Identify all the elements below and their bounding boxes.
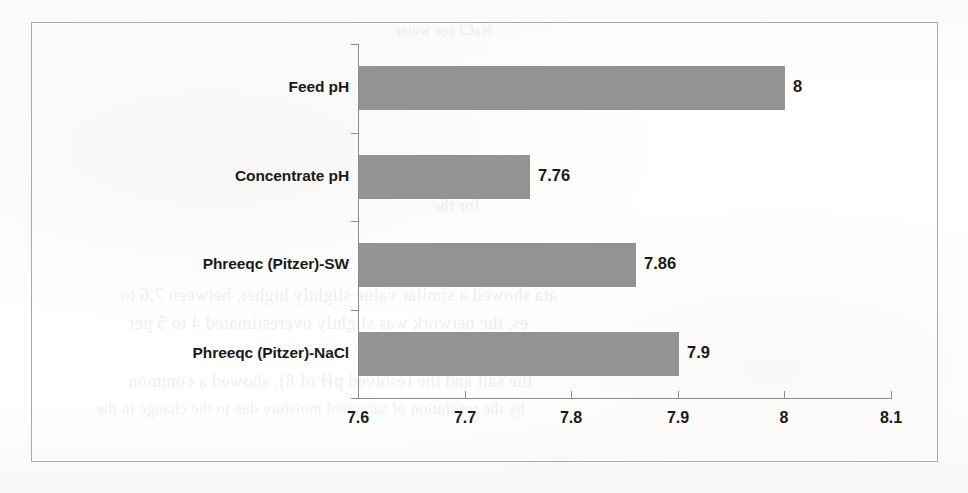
x-axis-tick-label: 8.1	[851, 409, 931, 427]
value-axis-tick	[891, 391, 892, 398]
x-axis-tick-label: 7.9	[638, 409, 718, 427]
category-axis-tick	[351, 221, 358, 222]
bar-chart-plot-area: 7.67.77.87.988.1Feed pH8Concentrate pH7.…	[32, 23, 937, 461]
value-axis-tick	[571, 391, 572, 398]
bar-value-label: 7.76	[538, 166, 570, 185]
x-axis-tick-label: 7.8	[531, 409, 611, 427]
category-axis-tick	[351, 44, 358, 45]
bar	[359, 66, 785, 110]
chart-border: 7.67.77.87.988.1Feed pH8Concentrate pH7.…	[31, 22, 938, 462]
value-axis-tick	[784, 391, 785, 398]
scanned-page: NaCl see waterfor theata showed a simila…	[0, 0, 968, 493]
bar-category-label: Feed pH	[19, 78, 349, 96]
bar-value-label: 7.9	[687, 343, 710, 362]
category-axis-tick	[351, 310, 358, 311]
value-axis-tick	[678, 391, 679, 398]
value-axis-tick	[358, 391, 359, 398]
bar-value-label: 7.86	[644, 254, 676, 273]
bar-value-label: 8	[793, 77, 802, 96]
bar	[359, 332, 679, 376]
x-axis-tick-label: 7.6	[318, 409, 398, 427]
bar-category-label: Phreeqc (Pitzer)-SW	[19, 255, 349, 273]
value-axis-tick	[465, 391, 466, 398]
category-axis-tick	[351, 398, 358, 399]
bar-category-label: Phreeqc (Pitzer)-NaCl	[19, 344, 349, 362]
x-axis-tick-label: 8	[744, 409, 824, 427]
bar	[359, 243, 636, 287]
bar-category-label: Concentrate pH	[19, 167, 349, 185]
value-axis-line	[358, 398, 892, 399]
category-axis-tick	[351, 133, 358, 134]
bar	[359, 155, 530, 199]
x-axis-tick-label: 7.7	[425, 409, 505, 427]
